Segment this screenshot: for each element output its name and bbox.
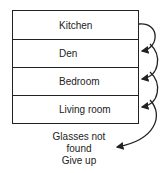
result-text: Glasses not found Give up	[44, 131, 114, 167]
result-line-2: Give up	[44, 155, 114, 167]
result-line-1: Glasses not found	[44, 131, 114, 155]
